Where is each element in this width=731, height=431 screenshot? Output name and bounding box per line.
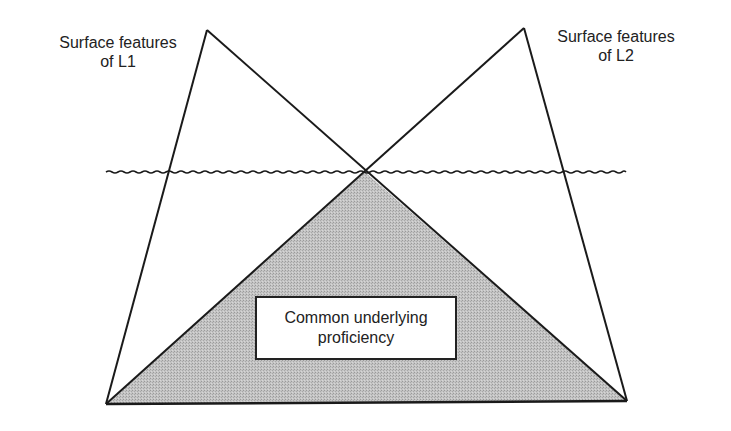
label-l1-line2: of L1 [38,52,198,71]
label-surface-features-l2: Surface features of L2 [536,27,696,65]
cup-line1: Common underlying [284,308,427,328]
label-surface-features-l1: Surface features of L1 [38,33,198,71]
common-underlying-proficiency-box: Common underlying proficiency [255,296,457,360]
cup-line2: proficiency [318,328,394,348]
label-l2-line1: Surface features [536,27,696,46]
common-proficiency-region [106,172,627,404]
label-l1-line1: Surface features [38,33,198,52]
label-l2-line2: of L2 [536,46,696,65]
